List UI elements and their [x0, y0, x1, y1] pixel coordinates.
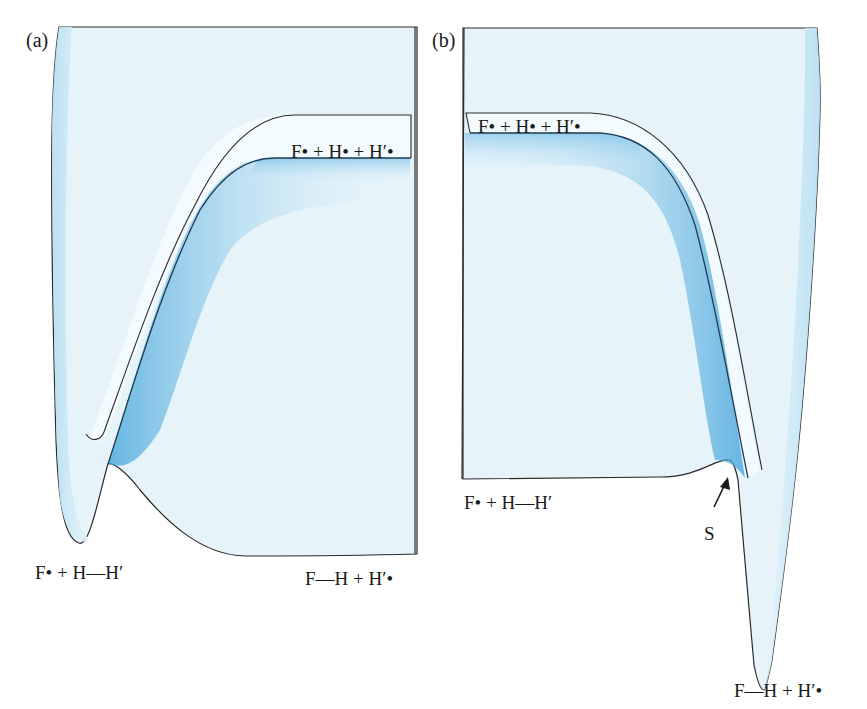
panel-b-saddle-label: S [704, 524, 715, 543]
potential-energy-surface-figure [0, 0, 867, 709]
panel-a-plateau-label: F• + H• + H′• [291, 142, 394, 161]
panel-a-reactants-label: F• + H—H′ [35, 563, 123, 582]
panel-b-top-shade [465, 133, 640, 175]
panel-a [52, 27, 417, 556]
panel-b-products-label: F—H + H′• [734, 681, 822, 700]
panel-a-products-label: F—H + H′• [305, 569, 393, 588]
panel-b-reactants-label: F• + H—H′ [464, 493, 552, 512]
panel-b-tag: (b) [432, 30, 455, 50]
panel-a-tag: (a) [26, 30, 48, 50]
panel-a-surface [52, 27, 417, 556]
panel-b-plateau-label: F• + H• + H′• [478, 117, 581, 136]
panel-a-top-shade [240, 158, 410, 185]
saddle-point-arrow-icon [714, 477, 730, 507]
